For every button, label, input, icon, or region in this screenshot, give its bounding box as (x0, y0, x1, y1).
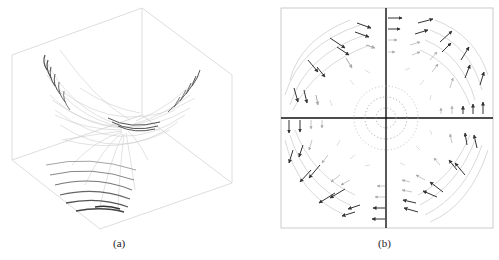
panel-a-caption: (a) (113, 237, 125, 249)
panel-b-vector-field: (b) (250, 0, 499, 260)
panel-b-caption: (b) (378, 237, 391, 249)
surface-edge-arcs (44, 55, 200, 212)
arrows-faint (330, 68, 432, 166)
surface-mesh (44, 50, 200, 208)
panel-a-saddle-surface: (a) (0, 0, 250, 260)
vector-field-plot (250, 0, 499, 235)
saddle-surface-plot (0, 0, 250, 235)
